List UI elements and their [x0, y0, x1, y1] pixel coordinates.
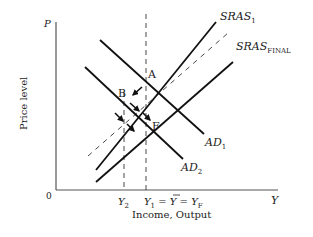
ad1-label: AD1: [204, 136, 226, 151]
ad-as-diagram: A B F SRAS1 SRASFINAL AD1 AD2 P 0 Y Pric…: [0, 0, 313, 237]
y2-tick-label: Y2: [118, 196, 129, 210]
x-axis-title: Income, Output: [132, 209, 211, 220]
y-axis-title: Price level: [18, 77, 29, 130]
point-b-label: B: [118, 87, 126, 100]
point-f-label: F: [152, 120, 160, 133]
arrow-down-3: [115, 113, 123, 121]
x-axis-symbol: Y: [271, 194, 280, 207]
origin-label: 0: [46, 191, 52, 201]
sras1-label: SRAS1: [220, 10, 256, 25]
y-axis-symbol: P: [43, 18, 51, 29]
arrow-a-to-b: [133, 87, 142, 95]
arrow-down-2: [143, 113, 150, 120]
y1-tick-label: Y1 = Y = YF: [144, 196, 203, 210]
sras1-curve: [96, 22, 216, 170]
sras-final-curve: [96, 62, 233, 182]
point-a-label: A: [147, 68, 157, 81]
ad2-label: AD2: [180, 161, 202, 176]
sras-final-label: SRASFINAL: [236, 40, 291, 55]
